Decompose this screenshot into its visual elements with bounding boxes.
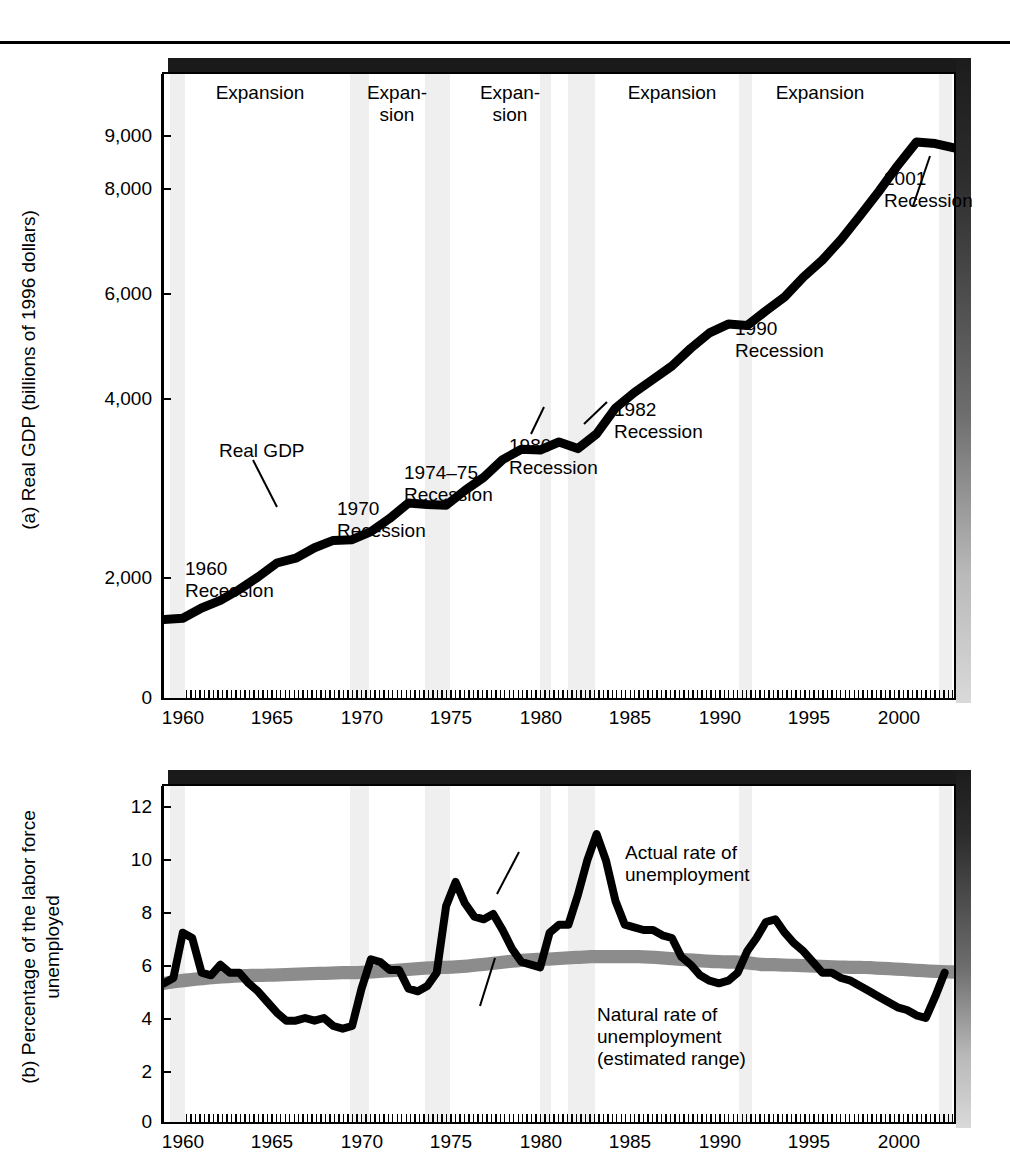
panel-b-xlabel-1980: 1980 [501,1132,581,1151]
panel-b-ylabel-6: 6 [80,956,152,975]
actual-unemployment-line [164,834,945,1029]
panel-b-ytick-2 [161,1071,171,1073]
panel-b-right-shadow [956,770,971,1128]
panel-b-xlabel-1985: 1985 [590,1132,670,1151]
panel-b-xlabel-1965: 1965 [232,1132,312,1151]
natural-rate-band [164,950,954,990]
panel-b-xlabel-2000: 2000 [859,1132,939,1151]
panel-b-minor-ticks [186,1114,956,1123]
panel-b-ylabel-12: 12 [80,797,152,816]
panel-b-xlabel-1960: 1960 [143,1132,223,1151]
panel-b-plot-area [164,786,954,1122]
panel-b-xlabel-1970: 1970 [322,1132,402,1151]
panel-b-top-shadow [168,770,962,784]
leader-actual-rate [497,852,519,894]
panel-b-ylabel-10: 10 [80,850,152,869]
panel-b-xlabel-1975: 1975 [411,1132,491,1151]
panel-b-ylabel-4: 4 [80,1009,152,1028]
panel-b-ylabel-8: 8 [80,903,152,922]
annotation-actual-rate: Actual rate of unemployment [625,842,750,886]
panel-b-ytick-10 [161,859,171,861]
panel-b-chart-svg [164,786,954,1122]
panel-b-unemployment: Actual rate of unemployment Natural rate… [0,0,1010,1157]
panel-b-ytick-12 [161,806,171,808]
panel-b-ylabel-0: 0 [80,1112,152,1131]
panel-b-ytick-8 [161,912,171,914]
panel-b-ytick-4 [161,1018,171,1020]
panel-b-ylabel-2: 2 [80,1062,152,1081]
panel-b-ytick-6 [161,965,171,967]
panel-b-xlabel-1990: 1990 [680,1132,760,1151]
annotation-natural-rate: Natural rate of unemployment (estimated … [597,1004,746,1070]
panel-b-xlabel-1995: 1995 [769,1132,849,1151]
panel-b-axis-title-line2: unemployed [42,772,64,1122]
panel-b-axis-title-line1: (b) Percentage of the labor force [18,772,40,1122]
